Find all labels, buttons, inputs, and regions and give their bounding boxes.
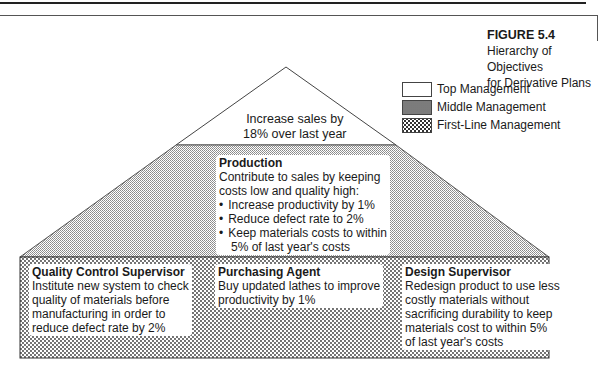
middle-line: costs low and quality high: [219, 184, 387, 198]
box-line: reduce defect rate by 2% [32, 321, 189, 335]
box-line: quality of materials before [32, 293, 189, 307]
box-heading: Purchasing Agent [218, 265, 380, 279]
box-line: of last year's costs [405, 335, 560, 349]
box-line: Buy updated lathes to improve [218, 279, 380, 293]
middle-line: Contribute to sales by keeping [219, 170, 387, 184]
box-line: costly materials without [405, 293, 560, 307]
box-line: productivity by 1% [218, 293, 380, 307]
top-line: Increase sales by [243, 112, 347, 127]
top-line: 18% over last year [243, 127, 347, 142]
middle-bullets: Increase productivity by 1% Reduce defec… [219, 198, 387, 254]
bullet-item: Increase productivity by 1% [219, 198, 387, 212]
top-objective: Increase sales by 18% over last year [243, 112, 347, 142]
box-line: manufacturing in order to [32, 307, 189, 321]
box-heading: Design Supervisor [405, 265, 560, 279]
box-heading: Quality Control Supervisor [32, 265, 189, 279]
box-line: Redesign product to use less [405, 279, 560, 293]
box-line: sacrificing durability to keep [405, 307, 560, 321]
middle-heading: Production [219, 156, 387, 170]
middle-objective: Production Contribute to sales by keepin… [216, 155, 390, 255]
box-line: Institute new system to check [32, 279, 189, 293]
box-line: materials cost to within 5% [405, 321, 560, 335]
design-supervisor-objective: Design Supervisor Redesign product to us… [402, 264, 563, 350]
purchasing-agent-objective: Purchasing Agent Buy updated lathes to i… [215, 264, 383, 308]
bullet-continuation: 5% of last year's costs [219, 240, 387, 254]
bullet-item: Keep materials costs to within [219, 226, 387, 240]
bullet-item: Reduce defect rate to 2% [219, 212, 387, 226]
qc-supervisor-objective: Quality Control Supervisor Institute new… [29, 264, 192, 336]
